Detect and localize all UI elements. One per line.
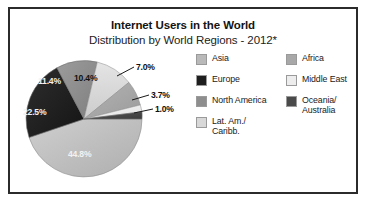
pie-label-africa: 7.0% <box>136 62 155 72</box>
chart-figure-frame: Internet Users in the World Distribution… <box>8 7 358 194</box>
pie-chart-svg <box>16 51 201 191</box>
legend-item-latin-america[interactable]: Lat. Am./ Caribb. <box>196 116 282 136</box>
legend-label-oceania: Oceania/ Australia <box>302 95 336 115</box>
pie-chart-area: 44.8% 22.5% 11.4% 10.4% 7.0% 3.7% 1.0% <box>16 51 201 191</box>
legend-label-middle-east: Middle East <box>302 74 347 84</box>
figure-inner: Internet Users in the World Distribution… <box>10 9 356 192</box>
legend-item-africa[interactable]: Africa <box>286 53 354 66</box>
legend-column-right: Africa Middle East Oceania/ Australia <box>286 53 354 123</box>
pie-label-europe: 22.5% <box>23 107 46 117</box>
legend-swatch-oceania <box>286 96 297 107</box>
pie-label-oceania: 1.0% <box>155 104 174 114</box>
leader-line-africa <box>117 67 134 76</box>
title-block: Internet Users in the World Distribution… <box>10 18 356 48</box>
pie-label-middle-east: 3.7% <box>151 90 170 100</box>
legend-swatch-middle-east <box>286 75 297 86</box>
legend-label-north-america: North America <box>212 95 266 105</box>
pie-label-asia: 44.8% <box>68 149 91 159</box>
chart-legend: Asia Europe North America <box>196 53 354 173</box>
legend-label-africa: Africa <box>302 53 324 63</box>
legend-item-middle-east[interactable]: Middle East <box>286 74 354 87</box>
legend-swatch-north-america <box>196 96 207 107</box>
legend-swatch-europe <box>196 75 207 86</box>
legend-item-asia[interactable]: Asia <box>196 53 282 66</box>
pie-label-north-america: 11.4% <box>38 76 61 86</box>
legend-label-europe: Europe <box>212 74 240 84</box>
legend-label-latin-america: Lat. Am./ Caribb. <box>212 116 246 136</box>
legend-swatch-latin-america <box>196 117 207 128</box>
legend-swatch-africa <box>286 54 297 65</box>
legend-item-north-america[interactable]: North America <box>196 95 282 108</box>
legend-item-europe[interactable]: Europe <box>196 74 282 87</box>
pie-label-latin-america: 10.4% <box>74 73 97 83</box>
legend-swatch-asia <box>196 54 207 65</box>
legend-label-asia: Asia <box>212 53 229 63</box>
chart-title: Internet Users in the World <box>10 18 356 32</box>
chart-subtitle: Distribution by World Regions - 2012* <box>10 33 356 48</box>
legend-item-oceania[interactable]: Oceania/ Australia <box>286 95 354 115</box>
legend-column-left: Asia Europe North America <box>196 53 282 144</box>
